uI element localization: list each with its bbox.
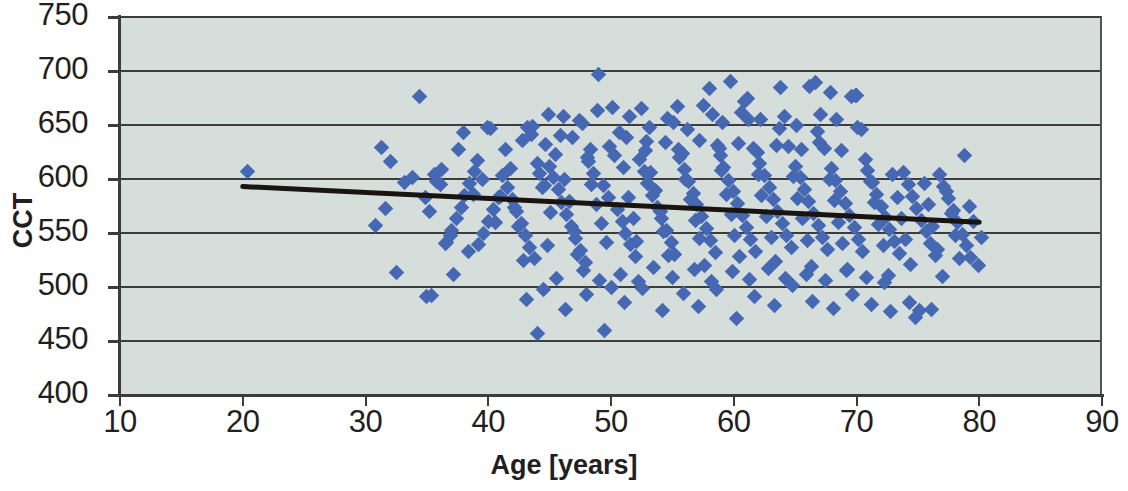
y-axis-tick-label: 450	[0, 321, 88, 357]
y-axis-title: CCT	[8, 181, 39, 261]
trendline-segment	[243, 187, 980, 223]
y-axis-tick	[108, 178, 120, 181]
scatter-chart: 400450500550600650700750 102030405060708…	[0, 0, 1128, 491]
x-axis-tick-label: 80	[939, 404, 1019, 440]
y-axis-tick-label: 400	[0, 375, 88, 411]
plot-border-top	[120, 16, 1102, 18]
x-axis-tick-label: 20	[203, 404, 283, 440]
plot-border-right	[1100, 17, 1102, 395]
x-axis-tick-label: 40	[448, 404, 528, 440]
x-axis-tick-label: 30	[326, 404, 406, 440]
y-axis-tick	[108, 232, 120, 235]
y-axis-tick	[108, 124, 120, 127]
y-axis-tick-label: 650	[0, 105, 88, 141]
x-axis-tick-label: 10	[80, 404, 160, 440]
y-axis-tick	[108, 340, 120, 343]
x-axis-tick-label: 50	[571, 404, 651, 440]
y-axis-tick-label: 700	[0, 51, 88, 87]
x-axis-title: Age [years]	[0, 450, 1128, 481]
x-axis-tick-label: 60	[694, 404, 774, 440]
y-axis-tick	[108, 70, 120, 73]
x-axis-tick-label: 70	[817, 404, 897, 440]
x-axis-tick-label: 90	[1062, 404, 1128, 440]
y-axis-tick	[108, 16, 120, 19]
y-axis-tick-label: 750	[0, 0, 88, 33]
y-axis-tick-label: 500	[0, 267, 88, 303]
y-axis-tick	[108, 286, 120, 289]
